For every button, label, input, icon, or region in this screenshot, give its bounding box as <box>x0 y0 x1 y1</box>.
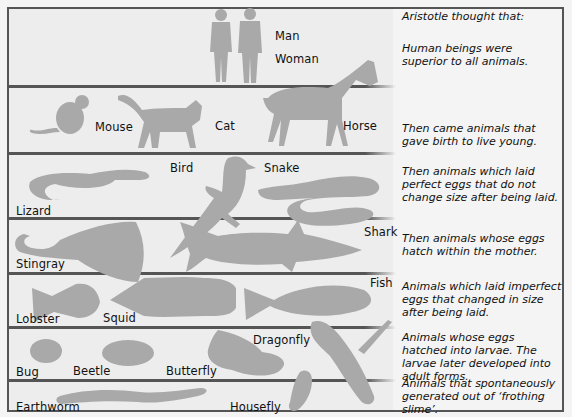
label-housefly: Housefly <box>230 400 281 414</box>
label-bird: Bird <box>170 161 193 175</box>
label-lobster: Lobster <box>16 312 60 326</box>
dragonfly-icon <box>311 320 392 404</box>
description-level-4: Then animals whose eggs hatch within the… <box>402 232 552 258</box>
description-level-7: Animals that spontaneously generated out… <box>402 377 570 416</box>
label-butterfly: Butterfly <box>166 364 217 378</box>
label-bug: Bug <box>16 365 39 379</box>
label-dragonfly: Dragonfly <box>253 333 310 347</box>
horse-icon <box>263 60 378 146</box>
label-shark: Shark <box>364 225 398 239</box>
animal-silhouettes <box>0 0 400 417</box>
label-snake: Snake <box>264 161 299 175</box>
lizard-icon <box>29 170 149 200</box>
mouse-icon <box>30 95 89 134</box>
label-horse: Horse <box>343 119 377 133</box>
label-fish: Fish <box>370 276 393 290</box>
label-beetle: Beetle <box>73 364 110 378</box>
woman-icon <box>210 9 232 82</box>
description-level-5: Animals which laid imperfect eggs that c… <box>402 280 562 319</box>
label-squid: Squid <box>103 311 136 325</box>
bug-icon <box>30 339 62 363</box>
label-stingray: Stingray <box>16 257 65 271</box>
description-level-6: Animals whose eggs hatched into larvae. … <box>402 331 562 383</box>
description-level-2: Then came animals that gave birth to liv… <box>402 122 542 148</box>
stingray-icon <box>15 222 144 282</box>
label-earthworm: Earthworm <box>16 400 80 414</box>
fish-icon <box>244 285 371 320</box>
label-lizard: Lizard <box>16 204 51 218</box>
label-man: Man <box>275 29 300 43</box>
heading: Aristotle thought that: <box>402 10 567 23</box>
label-cat: Cat <box>215 119 235 133</box>
description-level-3: Then animals which laid perfect eggs tha… <box>402 165 570 204</box>
snake-icon <box>258 176 379 226</box>
label-woman: Woman <box>275 52 319 66</box>
man-icon <box>238 8 262 83</box>
housefly-icon <box>289 370 312 410</box>
description-level-1: Human beings were superior to all animal… <box>402 42 542 68</box>
label-mouse: Mouse <box>95 120 133 134</box>
beetle-icon <box>102 340 154 366</box>
